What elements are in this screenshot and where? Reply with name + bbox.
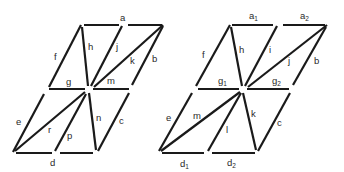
label-c: c bbox=[119, 115, 124, 126]
label-m: m bbox=[107, 75, 115, 86]
label-j: j bbox=[115, 41, 118, 52]
edge-r bbox=[15, 92, 85, 151]
label-g1: g1 bbox=[218, 75, 227, 87]
label-l: l bbox=[226, 124, 228, 135]
edge-c bbox=[98, 93, 129, 151]
label-b: b bbox=[314, 55, 319, 66]
edge-b bbox=[293, 27, 326, 85]
label-m: m bbox=[193, 110, 201, 121]
label-b: b bbox=[152, 53, 157, 64]
label-d: d bbox=[50, 157, 55, 168]
edge-h bbox=[82, 27, 88, 86]
left-diagram: a f h j k b g m e r p n c d bbox=[13, 12, 163, 168]
label-p: p bbox=[67, 130, 72, 141]
edge-n bbox=[89, 93, 96, 150]
label-e: e bbox=[166, 112, 171, 123]
edge-c bbox=[258, 93, 290, 151]
label-c: c bbox=[277, 117, 282, 128]
label-k: k bbox=[251, 108, 256, 119]
label-j: j bbox=[287, 55, 290, 66]
label-f: f bbox=[54, 51, 57, 62]
label-a2: a2 bbox=[300, 10, 309, 22]
edge-e bbox=[159, 93, 192, 151]
edge-m bbox=[161, 92, 240, 151]
label-d1: d1 bbox=[180, 158, 189, 170]
label-g2: g2 bbox=[272, 75, 281, 87]
triangulated-parallelogram-figures: a f h j k b g m e r p n c d a1 a2 f h bbox=[0, 0, 344, 172]
label-h: h bbox=[88, 41, 93, 52]
label-n: n bbox=[96, 112, 101, 123]
label-i: i bbox=[269, 44, 271, 55]
edge-l bbox=[208, 93, 241, 151]
label-e: e bbox=[16, 116, 21, 127]
edge-p bbox=[55, 94, 86, 151]
edge-k bbox=[243, 93, 256, 150]
label-h: h bbox=[239, 44, 244, 55]
label-g: g bbox=[66, 76, 71, 87]
edge-h bbox=[231, 27, 242, 86]
label-d2: d2 bbox=[227, 157, 236, 169]
label-a1: a1 bbox=[249, 10, 258, 22]
label-r: r bbox=[48, 124, 51, 135]
label-f: f bbox=[202, 49, 205, 60]
edge-b bbox=[132, 26, 163, 85]
label-k: k bbox=[130, 55, 135, 66]
label-a: a bbox=[120, 12, 126, 23]
right-diagram: a1 a2 f h i j b g1 g2 e m l k c d1 d2 bbox=[159, 10, 327, 170]
